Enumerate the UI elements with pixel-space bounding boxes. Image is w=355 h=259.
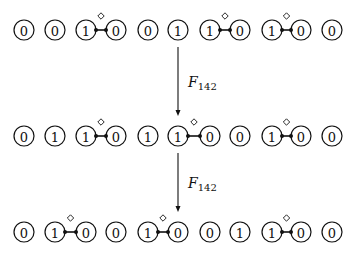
cell: 0 bbox=[322, 20, 342, 40]
cell-value: 0 bbox=[328, 226, 336, 241]
bond-link bbox=[280, 13, 293, 32]
cell-value: 1 bbox=[268, 226, 276, 241]
cell: 0 bbox=[106, 126, 126, 146]
bond-link bbox=[63, 215, 78, 234]
cell-value: 0 bbox=[206, 130, 214, 145]
bond-link bbox=[94, 119, 108, 138]
cell-value: 0 bbox=[20, 226, 28, 241]
diamond-marker-icon bbox=[222, 13, 228, 19]
cell-value: 1 bbox=[51, 130, 59, 145]
cell-value: 1 bbox=[268, 130, 276, 145]
cell: 0 bbox=[291, 222, 311, 242]
cell-value: 0 bbox=[297, 24, 305, 39]
cell: 0 bbox=[14, 126, 34, 146]
diamond-marker-icon bbox=[98, 119, 104, 125]
cell-value: 1 bbox=[206, 24, 214, 39]
diamond-marker-icon bbox=[283, 215, 289, 221]
cell: 0 bbox=[106, 222, 126, 242]
state-row: 01001001100 bbox=[14, 215, 342, 242]
cellular-automaton-diagram: 001001101000110110010001001001100F142F14… bbox=[0, 0, 355, 259]
cell-value: 1 bbox=[174, 24, 182, 39]
cell: 0 bbox=[14, 20, 34, 40]
bond-link bbox=[280, 119, 293, 138]
diamond-marker-icon bbox=[67, 215, 73, 221]
arrowhead-icon bbox=[176, 110, 181, 116]
cell: 1 bbox=[200, 20, 220, 40]
cell-value: 1 bbox=[174, 130, 182, 145]
cell-value: 0 bbox=[144, 24, 152, 39]
transition-label: F142 bbox=[187, 175, 217, 193]
transition-arrow: F142 bbox=[176, 153, 217, 212]
diamond-marker-icon bbox=[191, 119, 197, 125]
cell: 1 bbox=[76, 20, 96, 40]
cell-value: 1 bbox=[51, 226, 59, 241]
state-row: 00100110100 bbox=[14, 13, 342, 40]
cell: 1 bbox=[138, 222, 158, 242]
transition-label: F142 bbox=[187, 74, 217, 92]
arrowhead-icon bbox=[176, 206, 181, 212]
cell: 1 bbox=[168, 20, 188, 40]
cell-value: 0 bbox=[328, 130, 336, 145]
cell: 0 bbox=[322, 222, 342, 242]
cell: 0 bbox=[106, 20, 126, 40]
bond-link bbox=[186, 119, 202, 138]
cell: 0 bbox=[230, 20, 250, 40]
cell: 1 bbox=[45, 222, 65, 242]
bond-link bbox=[218, 13, 232, 32]
cell: 0 bbox=[200, 126, 220, 146]
cell: 1 bbox=[262, 126, 282, 146]
cell-value: 1 bbox=[82, 24, 90, 39]
cell-value: 0 bbox=[51, 24, 59, 39]
cell: 0 bbox=[200, 222, 220, 242]
bond-link bbox=[280, 215, 293, 234]
transition-arrow: F142 bbox=[176, 47, 217, 116]
cell: 1 bbox=[168, 126, 188, 146]
cell-value: 1 bbox=[144, 130, 152, 145]
cell: 0 bbox=[14, 222, 34, 242]
state-row: 01101100100 bbox=[14, 119, 342, 146]
cell: 0 bbox=[138, 20, 158, 40]
cell: 1 bbox=[45, 126, 65, 146]
cell: 0 bbox=[291, 126, 311, 146]
cell-value: 0 bbox=[174, 226, 182, 241]
cell: 1 bbox=[262, 222, 282, 242]
cell-value: 0 bbox=[20, 130, 28, 145]
bond-link bbox=[94, 13, 108, 32]
cell: 1 bbox=[230, 222, 250, 242]
diamond-marker-icon bbox=[283, 119, 289, 125]
diamond-marker-icon bbox=[160, 215, 166, 221]
cell-value: 1 bbox=[144, 226, 152, 241]
cell-value: 0 bbox=[328, 24, 336, 39]
cell: 1 bbox=[138, 126, 158, 146]
bond-link bbox=[156, 215, 170, 234]
cell-value: 0 bbox=[20, 24, 28, 39]
cell: 0 bbox=[230, 126, 250, 146]
cell: 0 bbox=[76, 222, 96, 242]
cell-value: 1 bbox=[268, 24, 276, 39]
cell-value: 0 bbox=[236, 130, 244, 145]
cell: 0 bbox=[322, 126, 342, 146]
cell-value: 0 bbox=[112, 226, 120, 241]
cell-value: 0 bbox=[297, 130, 305, 145]
diamond-marker-icon bbox=[283, 13, 289, 19]
cell-value: 0 bbox=[112, 24, 120, 39]
cell: 0 bbox=[291, 20, 311, 40]
cell: 1 bbox=[76, 126, 96, 146]
diamond-marker-icon bbox=[98, 13, 104, 19]
cell-value: 0 bbox=[206, 226, 214, 241]
cell-value: 0 bbox=[82, 226, 90, 241]
cell-value: 0 bbox=[236, 24, 244, 39]
cell: 0 bbox=[168, 222, 188, 242]
cell-value: 1 bbox=[82, 130, 90, 145]
cell-value: 0 bbox=[297, 226, 305, 241]
cell: 1 bbox=[262, 20, 282, 40]
cell-value: 1 bbox=[236, 226, 244, 241]
cell: 0 bbox=[45, 20, 65, 40]
cell-value: 0 bbox=[112, 130, 120, 145]
